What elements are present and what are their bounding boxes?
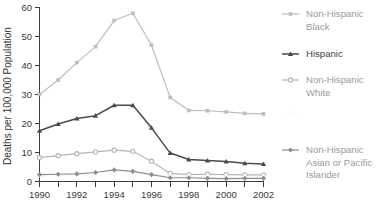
y-tick-group-0: 0	[27, 176, 40, 187]
series-point-4-2	[74, 171, 79, 176]
series-0	[38, 12, 266, 116]
y-tick-group-50: 50	[21, 31, 39, 42]
x-tick-label-2000: 2000	[216, 189, 237, 200]
series-point-2-5	[131, 149, 135, 153]
y-tick-group-40: 40	[21, 60, 39, 71]
series-point-2-1	[56, 154, 60, 158]
series-point-2-3	[93, 150, 97, 154]
series-point-4-4	[112, 167, 117, 172]
x-tick-label-1990: 1990	[29, 189, 50, 200]
y-tick-label-20: 20	[21, 118, 32, 129]
series-point-0-2	[75, 61, 79, 65]
x-tick-label-1998: 1998	[178, 189, 199, 200]
x-axis: 1990199219941996199820002002	[29, 182, 274, 201]
legend-entry-3[interactable]	[282, 111, 299, 115]
legend-entry-0[interactable]: Non-HispanicBlack	[282, 8, 364, 32]
series-point-0-11	[243, 112, 247, 116]
y-axis-title-text: Deaths per 100,000 Population	[2, 27, 13, 165]
x-tick-label-2002: 2002	[253, 189, 274, 200]
x-tick-label-1994: 1994	[104, 189, 125, 200]
y-tick-group-10: 10	[21, 147, 39, 158]
y-tick-label-30: 30	[21, 89, 32, 100]
y-tick-label-50: 50	[21, 31, 32, 42]
series-point-4-0	[37, 172, 42, 177]
legend-label-0-line1: Non-Hispanic	[306, 8, 364, 19]
y-tick-label-60: 60	[21, 2, 32, 13]
x-tick-label-1992: 1992	[66, 189, 87, 200]
series-point-4-5	[130, 169, 135, 174]
series-point-0-12	[262, 112, 266, 116]
series-layer	[37, 12, 266, 182]
y-tick-label-0: 0	[27, 176, 32, 187]
x-tick-label-1996: 1996	[141, 189, 162, 200]
legend-entry-4[interactable]: Non-HispanicAsian or PacificIslander	[282, 144, 372, 180]
y-tick-group-20: 20	[21, 118, 39, 129]
x-tick-labels: 1990199219941996199820002002	[29, 189, 274, 200]
series-point-0-3	[94, 45, 98, 49]
y-axis: 60 50 40 30 20 10	[21, 2, 39, 187]
legend-marker-4	[288, 147, 293, 152]
series-point-2-2	[75, 152, 79, 156]
y-tick-label-10: 10	[21, 147, 32, 158]
series-point-0-5	[131, 12, 135, 16]
legend-label-2-line2: White	[306, 87, 331, 98]
legend-entry-1[interactable]: Hispanic	[282, 48, 343, 59]
legend-label-0-line2: Black	[306, 21, 330, 32]
series-point-4-1	[56, 172, 61, 177]
series-point-0-0	[38, 93, 42, 97]
legend-marker-0	[289, 12, 293, 16]
chart-legend: Non-HispanicBlackHispanicNon-HispanicWhi…	[282, 8, 372, 180]
legend-label-4-line1: Non-Hispanic	[306, 144, 364, 155]
legend-label-1-line1: Hispanic	[306, 48, 343, 59]
y-axis-title: Deaths per 100,000 Population	[2, 27, 13, 165]
legend-marker-3	[289, 111, 293, 115]
series-point-0-8	[187, 109, 191, 113]
series-point-0-4	[112, 19, 116, 23]
chart-svg: Deaths per 100,000 Population 60 50 40 3…	[0, 0, 376, 204]
x-tick-marks	[40, 182, 264, 187]
legend-label-4-line2: Asian or Pacific	[306, 157, 372, 168]
series-point-0-9	[206, 109, 210, 113]
series-point-2-4	[112, 148, 116, 152]
series-point-0-6	[150, 43, 154, 47]
y-tick-group-30: 30	[21, 89, 39, 100]
y-tick-group-60: 60	[21, 2, 39, 13]
legend-marker-2	[288, 78, 292, 82]
series-line-1	[40, 105, 264, 164]
series-point-0-10	[224, 110, 228, 114]
series-line-0	[40, 13, 264, 114]
line-chart: Deaths per 100,000 Population 60 50 40 3…	[0, 0, 376, 204]
series-point-2-6	[149, 159, 153, 163]
y-tick-label-40: 40	[21, 60, 32, 71]
series-point-2-0	[37, 156, 41, 160]
legend-label-2-line1: Non-Hispanic	[306, 74, 364, 85]
series-point-4-6	[149, 172, 154, 177]
series-point-3-4	[112, 172, 116, 176]
series-point-0-7	[168, 96, 172, 100]
legend-label-4-line3: Islander	[306, 169, 341, 180]
series-point-0-1	[56, 78, 60, 82]
legend-entry-2[interactable]: Non-HispanicWhite	[282, 74, 364, 98]
